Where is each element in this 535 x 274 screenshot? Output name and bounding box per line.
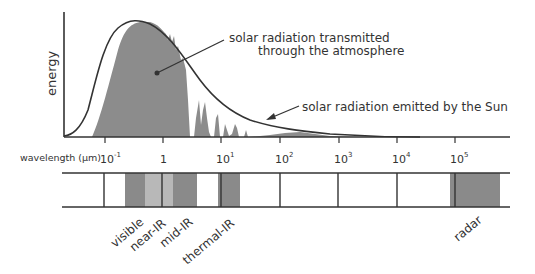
wavelength-label: wavelength (µm) — [20, 152, 101, 163]
y-axis-label: energy — [44, 50, 59, 96]
svg-text:10-1: 10-1 — [100, 151, 121, 166]
emitted-pointer-arrowhead — [266, 113, 276, 120]
spectral-bands-strip — [62, 173, 510, 207]
emitted-label: solar radiation emitted by the Sun — [302, 100, 508, 114]
tick-labels: 10-1 1 101 102 103 104 105 — [100, 151, 468, 166]
band-radar — [450, 173, 500, 207]
svg-text:102: 102 — [275, 151, 293, 166]
label-radar: radar — [451, 213, 485, 244]
svg-text:104: 104 — [392, 151, 411, 166]
solar-spectrum-diagram: energy solar radiation transmitted throu… — [0, 0, 535, 274]
svg-text:101: 101 — [216, 151, 234, 166]
transmitted-pointer-dot — [155, 71, 160, 76]
band-near-ir — [145, 173, 173, 207]
x-axis-ticks — [105, 137, 455, 143]
svg-text:103: 103 — [334, 151, 352, 166]
transmitted-label-line2: through the atmosphere — [258, 44, 404, 58]
band-visible — [125, 173, 145, 207]
band-mid-ir — [173, 173, 197, 207]
svg-text:1: 1 — [160, 153, 167, 166]
band-labels: visible near-IR mid-IR thermal-IR radar — [108, 213, 485, 267]
transmitted-label-line1: solar radiation transmitted — [229, 31, 390, 45]
svg-text:105: 105 — [450, 151, 468, 166]
